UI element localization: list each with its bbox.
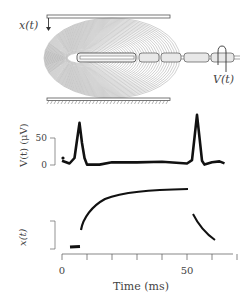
displacement-label: x(t) bbox=[19, 19, 38, 32]
displacement-trace bbox=[81, 189, 188, 230]
voltage-trace bbox=[62, 115, 225, 165]
bottom-plate bbox=[47, 98, 170, 101]
voltage-label: V(t) bbox=[213, 73, 234, 86]
top-plate bbox=[47, 15, 170, 18]
figure-canvas: x(t) V(t) 50 0 V(t) (μV) x(t) 0 50 Time … bbox=[0, 0, 251, 305]
displacement-scale-bar bbox=[50, 221, 55, 249]
arrow-head-icon bbox=[46, 27, 51, 31]
displacement-panel: x(t) bbox=[17, 189, 215, 249]
voltage-ylabel: V(t) (μV) bbox=[18, 123, 29, 168]
voltage-scale-bar bbox=[50, 138, 55, 165]
time-axis: 0 50 Time (ms) bbox=[59, 254, 237, 293]
voltage-tick-50: 50 bbox=[36, 133, 48, 143]
time-tick-50: 50 bbox=[181, 265, 194, 276]
displacement-release-trace bbox=[193, 214, 215, 240]
schematic: x(t) V(t) bbox=[19, 15, 240, 104]
time-tick-0: 0 bbox=[59, 265, 65, 276]
nerve-fiber bbox=[77, 53, 240, 62]
voltage-panel: 50 0 V(t) (μV) bbox=[18, 115, 225, 170]
displacement-baseline bbox=[70, 247, 80, 248]
voltage-tick-0: 0 bbox=[41, 160, 47, 170]
time-xlabel: Time (ms) bbox=[113, 280, 169, 293]
displacement-ylabel: x(t) bbox=[17, 228, 28, 246]
ground-hatch bbox=[47, 101, 168, 105]
